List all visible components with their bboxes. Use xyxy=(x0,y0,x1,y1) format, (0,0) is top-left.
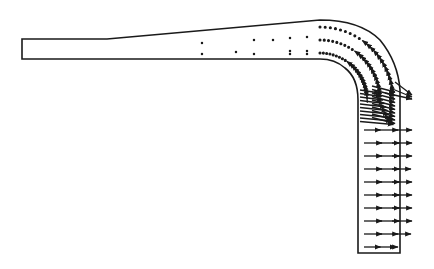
vector-dot xyxy=(306,50,307,51)
vector-dot xyxy=(351,49,353,51)
vector-dot xyxy=(344,44,346,46)
vector-dot xyxy=(336,42,338,44)
vector-dot xyxy=(329,53,331,55)
vector-dot xyxy=(340,29,342,31)
vector-dot xyxy=(289,37,290,38)
vector-arrow xyxy=(377,54,380,58)
vector-arrow xyxy=(362,40,365,42)
vector-dot xyxy=(319,39,321,41)
vector-dot xyxy=(326,53,328,55)
vector-dot xyxy=(319,52,321,54)
vector-arrow xyxy=(373,50,376,54)
vector-dot xyxy=(289,53,290,54)
vector-dot xyxy=(342,58,344,60)
vector-dot xyxy=(323,39,325,41)
vector-dot xyxy=(335,55,337,57)
vector-dot xyxy=(344,31,346,33)
vector-arrow xyxy=(366,43,369,45)
vector-dot xyxy=(201,42,202,43)
vector-dot xyxy=(235,51,236,52)
vector-dot xyxy=(324,26,326,28)
vector-dot xyxy=(340,43,342,45)
vector-dot xyxy=(322,52,324,54)
vector-dot xyxy=(253,53,254,54)
vector-dot xyxy=(272,39,273,40)
vector-dot xyxy=(332,40,334,42)
channel-flow-diagram xyxy=(0,0,434,269)
vector-arrow xyxy=(358,53,361,55)
vector-dot xyxy=(354,35,356,37)
vector-dot xyxy=(348,46,350,48)
vector-dot xyxy=(335,28,337,30)
vector-arrow xyxy=(347,61,350,63)
vector-dot xyxy=(329,27,331,29)
vector-dot xyxy=(319,26,321,28)
vector-dot xyxy=(306,53,307,54)
channel-outline xyxy=(22,20,400,253)
vector-dot xyxy=(344,59,346,61)
vector-dot xyxy=(332,54,334,56)
vector-arrow xyxy=(361,56,364,59)
vector-dot xyxy=(349,33,351,35)
vector-dot xyxy=(358,38,360,40)
vector-dot xyxy=(339,56,341,58)
channel-wall xyxy=(22,20,400,253)
vector-dot xyxy=(289,50,290,51)
vector-arrow xyxy=(355,51,358,53)
vector-dot xyxy=(201,53,202,54)
vector-arrow xyxy=(370,47,373,50)
vector-dot xyxy=(306,36,307,37)
vector-dot xyxy=(253,39,254,40)
vector-dot xyxy=(328,40,330,42)
